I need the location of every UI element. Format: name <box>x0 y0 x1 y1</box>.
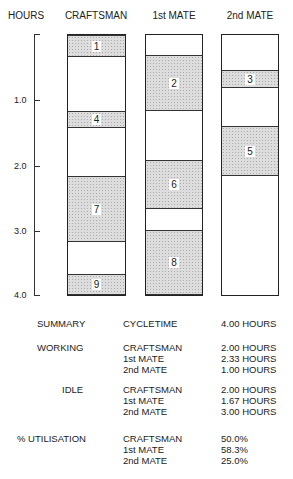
mate1-header: 1st MATE <box>145 10 203 21</box>
hours-header: HOURS <box>8 10 44 21</box>
segment: 5 <box>222 126 278 176</box>
tick <box>34 231 40 232</box>
segment: 9 <box>68 274 125 295</box>
segment: 7 <box>68 176 125 242</box>
idle-names: CRAFTSMAN 1st MATE 2nd MATE <box>123 384 182 417</box>
working-names: CRAFTSMAN 1st MATE 2nd MATE <box>123 342 182 375</box>
segment: 3 <box>222 70 278 88</box>
mate2-bar: 3 5 <box>221 34 279 296</box>
summary-label: SUMMARY <box>37 318 85 329</box>
working-values: 2.00 HOURS 2.33 HOURS 1.00 HOURS <box>221 342 276 375</box>
crew-activity-chart: HOURS CRAFTSMAN 1st MATE 2nd MATE 1.0 2.… <box>0 0 293 479</box>
cycle-value: 4.00 HOURS <box>221 318 276 329</box>
segment: 8 <box>146 230 202 295</box>
tick <box>34 34 40 35</box>
tick <box>34 100 40 101</box>
tick <box>34 166 40 167</box>
y-axis <box>34 34 35 296</box>
mate2-header: 2nd MATE <box>221 10 279 21</box>
mate1-bar: 2 6 8 <box>145 34 203 296</box>
util-values: 50.0% 58.3% 25.0% <box>221 433 248 466</box>
tick <box>34 295 40 296</box>
util-names: CRAFTSMAN 1st MATE 2nd MATE <box>123 433 182 466</box>
working-label: WORKING <box>37 342 83 353</box>
idle-values: 2.00 HOURS 1.67 HOURS 3.00 HOURS <box>221 384 276 417</box>
idle-label: IDLE <box>62 384 83 395</box>
segment: 6 <box>146 160 202 209</box>
segment: 4 <box>68 111 125 128</box>
craftsman-header: CRAFTSMAN <box>64 10 128 21</box>
cycle-label: CYCLETIME <box>123 318 177 329</box>
craftsman-bar: 1 4 7 9 <box>67 34 126 296</box>
segment: 2 <box>146 55 202 111</box>
tick-label: 3.0 <box>14 226 27 236</box>
segment: 1 <box>68 35 125 57</box>
util-label: % UTILISATION <box>17 433 86 444</box>
tick-label: 1.0 <box>14 95 27 105</box>
tick-label: 4.0 <box>14 290 27 300</box>
tick-label: 2.0 <box>14 161 27 171</box>
